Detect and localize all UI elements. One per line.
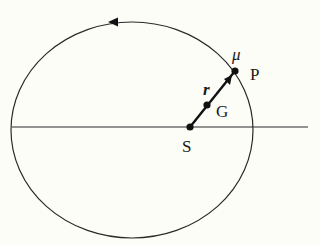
- point-P: [231, 67, 238, 74]
- point-G: [203, 101, 210, 108]
- label-mu: μ: [231, 45, 241, 64]
- label-G: G: [216, 102, 228, 121]
- orbit-diagram: μ P r G S: [0, 0, 320, 245]
- orbit-ellipse: [11, 22, 253, 238]
- label-P: P: [250, 65, 259, 84]
- label-r: r: [203, 80, 210, 99]
- orbit-direction-arrow-icon: [108, 18, 118, 27]
- point-S: [186, 123, 193, 130]
- label-S: S: [182, 137, 191, 156]
